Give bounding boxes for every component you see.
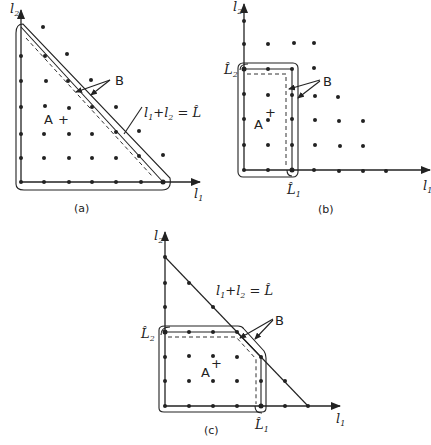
caption-c: (c): [204, 424, 219, 437]
caption-a: (a): [74, 202, 89, 215]
constraint-label: l1+l2 = L̂: [144, 105, 201, 122]
lattice-points: [242, 19, 389, 173]
region-a-label: A: [44, 112, 53, 127]
x-axis-label: l1: [194, 186, 203, 203]
constraint-label: l1+l2 = L̂: [216, 283, 273, 300]
x-limit-label: L̂1: [286, 182, 301, 199]
y-limit-label: L̂2: [223, 62, 238, 79]
region-a-plus: +: [211, 356, 222, 371]
b-arrow-outer: [255, 320, 273, 339]
boundary-b-label: B: [275, 313, 284, 328]
region-a-plus: +: [265, 105, 276, 120]
region-a-label: A: [254, 117, 263, 132]
caption-b: (b): [318, 203, 334, 216]
boundary-b-label: B: [115, 73, 124, 88]
diagram-canvas: l2 l1 A + B l1+l2 = L̂ (a) l2: [0, 0, 431, 445]
figure-b: l2 l1 L̂2 L̂1 A + B (b): [223, 0, 431, 216]
b-arrow-inner: [76, 80, 110, 92]
x-axis-label: l1: [423, 178, 431, 195]
boundary-b-label: B: [323, 74, 332, 89]
y-axis-label: l2: [154, 228, 163, 245]
region-a-label: A: [201, 365, 210, 380]
y-axis-label: l2: [233, 0, 242, 16]
figure-a: l2 l1 A + B l1+l2 = L̂ (a): [10, 1, 203, 215]
x-axis-label: l1: [336, 411, 345, 428]
y-limit-label: L̂2: [140, 326, 155, 343]
x-limit-label: L̂1: [254, 417, 269, 434]
y-axis-label: l2: [10, 1, 19, 18]
b-arrow-outer: [91, 80, 110, 95]
figure-c: l2 l1 L̂2 L̂1 A + B l1+l2 = L̂ (c): [140, 228, 345, 437]
region-a-plus: +: [58, 112, 69, 127]
b-arrow-inner: [240, 319, 273, 338]
